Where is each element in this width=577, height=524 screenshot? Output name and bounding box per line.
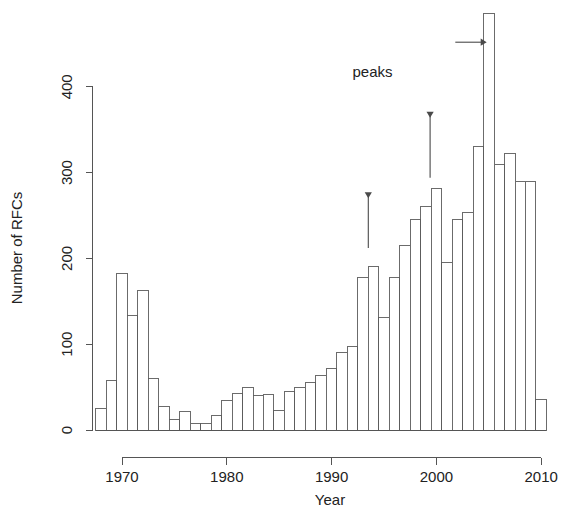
bar-2004	[473, 147, 483, 430]
bar-2009	[525, 181, 535, 430]
bar-1998	[410, 220, 420, 430]
bar-1976	[180, 412, 190, 430]
bar-1974	[159, 407, 169, 430]
bar-1981	[232, 393, 242, 430]
bar-1988	[305, 383, 315, 430]
bar-1977	[190, 423, 200, 430]
bar-2008	[515, 181, 525, 430]
arrow-1999-head	[427, 112, 434, 118]
bar-1984	[263, 395, 273, 430]
y-tick-labels: 0100200300400	[58, 74, 93, 434]
bar-1987	[295, 387, 305, 430]
peaks-label: peaks	[352, 63, 392, 80]
bar-1982	[243, 387, 253, 430]
chart-container: 19701980199020002010 0100200300400 peaks…	[0, 0, 577, 524]
bar-2001	[442, 263, 452, 430]
bar-2005	[484, 14, 494, 430]
bar-2010	[536, 399, 546, 430]
x-tick-label-1970: 1970	[105, 468, 138, 485]
bar-1997	[400, 246, 410, 430]
bar-1990	[326, 368, 336, 430]
bar-1973	[148, 379, 158, 430]
bar-2000	[431, 189, 441, 430]
bar-2003	[463, 213, 473, 430]
x-tick-labels: 19701980199020002010	[105, 458, 558, 486]
bar-1968	[96, 409, 106, 430]
bar-1992	[347, 347, 357, 430]
x-tick-label-1980: 1980	[210, 468, 243, 485]
y-tick-label-0: 0	[58, 426, 75, 434]
bar-1999	[421, 207, 431, 430]
y-tick-label-100: 100	[58, 332, 75, 357]
bar-1970	[117, 274, 127, 430]
x-tick-label-2000: 2000	[420, 468, 453, 485]
bar-1991	[337, 353, 347, 430]
bar-1975	[169, 420, 179, 430]
bar-2007	[505, 154, 515, 430]
bar-1989	[316, 375, 326, 430]
bar-1985	[274, 410, 284, 430]
bar-1971	[127, 316, 137, 430]
bar-1995	[379, 318, 389, 430]
bar-2006	[494, 164, 504, 430]
bar-1994	[368, 267, 378, 430]
x-axis-title: Year	[315, 491, 345, 508]
bar-1969	[106, 380, 116, 430]
y-tick-label-400: 400	[58, 74, 75, 99]
arrow-1994-head	[365, 192, 372, 198]
bar-1996	[389, 277, 399, 430]
rfc-histogram: 19701980199020002010 0100200300400 peaks…	[0, 0, 577, 524]
y-tick-label-200: 200	[58, 246, 75, 271]
x-tick-label-1990: 1990	[315, 468, 348, 485]
bar-1993	[358, 277, 368, 430]
bar-1978	[201, 424, 211, 430]
x-tick-label-2010: 2010	[525, 468, 558, 485]
bar-1979	[211, 415, 221, 430]
y-axis-title: Number of RFCs	[8, 192, 25, 305]
bar-1972	[138, 290, 148, 430]
bar-1986	[284, 391, 294, 430]
bar-2002	[452, 220, 462, 430]
y-tick-label-300: 300	[58, 160, 75, 185]
bar-1983	[253, 396, 263, 430]
bars-group	[96, 14, 547, 430]
bar-1980	[222, 401, 232, 430]
